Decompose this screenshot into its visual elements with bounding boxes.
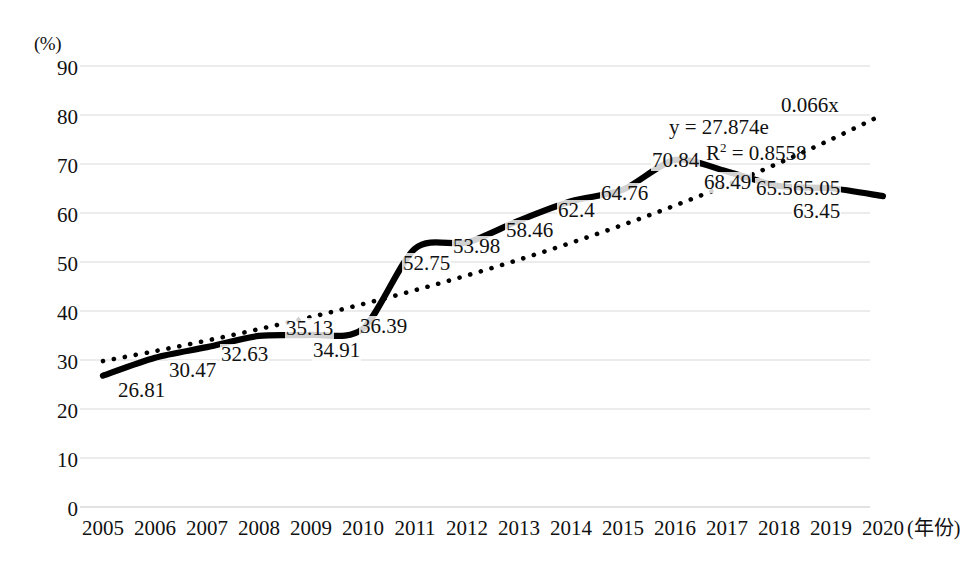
x-tick-2016: 2016 (645, 518, 705, 539)
x-tick-2010: 2010 (333, 518, 393, 539)
trendline-r-squared: R2 = 0.8558 (706, 142, 807, 164)
data-label-32-63: 32.63 (220, 344, 269, 365)
x-tick-2020: 2020 (853, 518, 913, 539)
data-label-35-13: 35.13 (285, 318, 334, 339)
data-label-26-81: 26.81 (117, 380, 166, 401)
x-tick-2014: 2014 (541, 518, 601, 539)
r-squared-value: = 0.8558 (727, 141, 807, 165)
data-label-70-84: 70.84 (651, 150, 700, 171)
data-label-64-76: 64.76 (600, 183, 649, 204)
x-tick-2008: 2008 (229, 518, 289, 539)
data-label-52-75: 52.75 (402, 253, 451, 274)
data-label-36-39: 36.39 (359, 316, 408, 337)
data-label-34-91: 34.91 (312, 340, 361, 361)
r-squared-symbol: R (706, 141, 720, 165)
data-label-65-05: 65.05 (792, 178, 841, 199)
x-tick-2019: 2019 (801, 518, 861, 539)
x-tick-2006: 2006 (125, 518, 185, 539)
x-tick-2013: 2013 (489, 518, 549, 539)
x-tick-2015: 2015 (593, 518, 653, 539)
x-tick-2009: 2009 (281, 518, 341, 539)
trendline-equation: y = 27.874e (669, 116, 769, 138)
data-label-58-46: 58.46 (505, 220, 554, 241)
trendline-equation-exponent: 0.066x (781, 94, 839, 116)
x-tick-2011: 2011 (385, 518, 445, 539)
data-label-30-47: 30.47 (168, 360, 217, 381)
data-label-65-5: 65.5 (755, 178, 794, 199)
data-label-53-98: 53.98 (452, 236, 501, 257)
x-tick-2017: 2017 (697, 518, 757, 539)
x-tick-2012: 2012 (437, 518, 497, 539)
data-label-68-49: 68.49 (703, 172, 752, 193)
x-axis-title: (年份) (907, 518, 960, 539)
x-tick-2007: 2007 (177, 518, 237, 539)
data-label-62-4: 62.4 (557, 200, 596, 221)
x-tick-2005: 2005 (73, 518, 133, 539)
x-tick-2018: 2018 (749, 518, 809, 539)
data-label-63-45: 63.45 (792, 201, 841, 222)
